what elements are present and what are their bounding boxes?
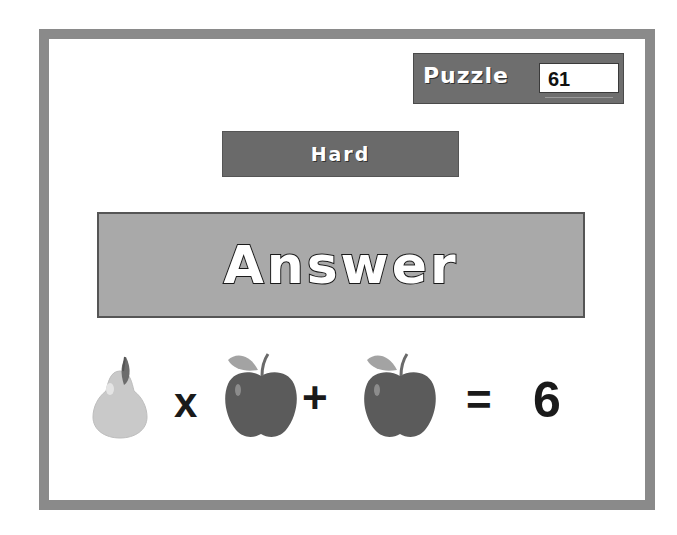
puzzle-number-input[interactable]	[539, 63, 619, 93]
difficulty-label: Hard	[311, 143, 371, 165]
answer-button-label: Answer	[223, 235, 458, 295]
difficulty-badge: Hard	[222, 131, 459, 177]
puzzle-label: Puzzle	[423, 63, 509, 88]
puzzle-number-panel: Puzzle	[413, 53, 624, 104]
answer-button[interactable]: Answer	[97, 212, 585, 318]
input-underline	[545, 97, 613, 98]
